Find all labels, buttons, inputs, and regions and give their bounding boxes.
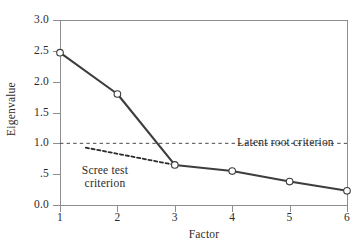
chart-data-layer bbox=[0, 0, 364, 247]
scree-plot-figure: 0.0.51.01.52.02.53.0 123456 Eigenvalue F… bbox=[0, 0, 364, 247]
scree-test-criterion-line bbox=[86, 148, 175, 165]
data-point-marker bbox=[286, 178, 293, 185]
scree-label-line-2: criterion bbox=[62, 177, 148, 190]
data-point-marker bbox=[229, 168, 236, 175]
data-point-marker bbox=[344, 188, 351, 195]
scree-label-line-1: Scree test bbox=[82, 164, 128, 176]
data-point-marker bbox=[57, 49, 64, 56]
scree-test-criterion-label: Scree test criterion bbox=[62, 164, 148, 190]
data-point-marker bbox=[172, 162, 179, 169]
latent-root-criterion-label: Latent root criterion bbox=[237, 136, 334, 149]
data-point-marker bbox=[114, 91, 121, 98]
